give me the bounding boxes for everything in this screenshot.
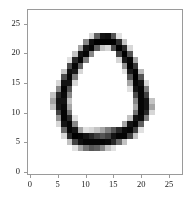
x-tick-mark <box>141 175 142 178</box>
digit-image-heatmap <box>28 10 182 174</box>
x-tick-mark <box>169 175 170 178</box>
x-tick-label: 0 <box>20 180 40 189</box>
y-tick-mark <box>24 24 27 25</box>
y-tick-mark <box>24 172 27 173</box>
figure-canvas: 05101520250510152025 <box>0 0 191 207</box>
x-tick-label: 5 <box>48 180 68 189</box>
figure-caption <box>0 196 191 202</box>
y-tick-label: 15 <box>0 78 20 87</box>
y-tick-mark <box>24 53 27 54</box>
y-tick-label: 5 <box>0 137 20 146</box>
x-tick-label: 25 <box>159 180 179 189</box>
plot-axes[interactable] <box>27 9 183 175</box>
y-tick-label: 10 <box>0 108 20 117</box>
x-tick-mark <box>58 175 59 178</box>
y-tick-mark <box>24 83 27 84</box>
x-tick-mark <box>113 175 114 178</box>
x-tick-mark <box>86 175 87 178</box>
y-tick-label: 0 <box>0 167 20 176</box>
y-tick-mark <box>24 142 27 143</box>
x-tick-label: 15 <box>103 180 123 189</box>
x-tick-mark <box>30 175 31 178</box>
x-tick-label: 10 <box>76 180 96 189</box>
y-tick-label: 25 <box>0 19 20 28</box>
y-tick-mark <box>24 113 27 114</box>
x-tick-label: 20 <box>131 180 151 189</box>
y-tick-label: 20 <box>0 48 20 57</box>
